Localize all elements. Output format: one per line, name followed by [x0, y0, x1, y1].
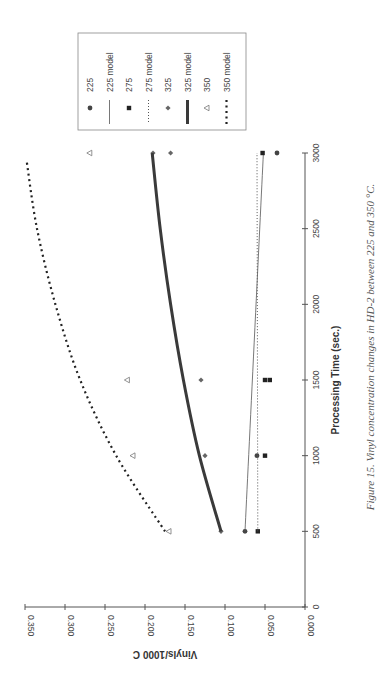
data-point	[130, 453, 135, 459]
chart-figure: 0500100015002000250030000.0000.0500.1000…	[0, 0, 386, 681]
legend-label: 225 model	[105, 52, 115, 92]
y-tick-label: 0.300	[66, 615, 76, 637]
data-point	[256, 529, 260, 533]
data-point	[202, 453, 207, 458]
data-point	[263, 453, 267, 457]
data-point	[268, 378, 272, 382]
legend: 225225 model275275 model325325 model3503…	[78, 33, 246, 130]
x-tick-label: 500	[311, 524, 321, 538]
x-tick-label: 0	[311, 604, 321, 609]
series-275	[256, 151, 272, 534]
legend-label: 275 model	[144, 52, 154, 92]
data-point	[198, 377, 203, 382]
model-line	[152, 153, 221, 531]
data-point	[166, 529, 171, 535]
model-line	[257, 153, 258, 531]
y-tick-label: 0.250	[106, 615, 116, 637]
data-point	[255, 453, 260, 458]
series-225-model	[245, 153, 263, 531]
series-325-model	[152, 153, 221, 531]
legend-label: 225	[85, 78, 95, 92]
x-tick-label: 2500	[311, 219, 321, 238]
series-350-model	[27, 161, 165, 532]
y-tick-label: 0.200	[146, 615, 156, 637]
legend-label: 325 model	[183, 52, 193, 92]
x-axis-title: Processing Time (sec.)	[330, 326, 341, 435]
x-tick-label: 1500	[311, 370, 321, 389]
y-tick-label: 0.050	[266, 615, 276, 637]
y-axis-title: Vinyls/1000 C	[133, 649, 197, 660]
circle-marker-icon	[88, 106, 93, 111]
model-line	[27, 161, 165, 532]
plot-area	[27, 150, 280, 534]
data-point	[263, 378, 267, 382]
figure-caption: Figure 15. Vinyl concentration changes i…	[364, 184, 376, 512]
series-275-model	[257, 153, 258, 531]
data-point	[275, 151, 280, 156]
y-tick-label: 0.350	[26, 615, 36, 637]
data-point	[87, 150, 92, 156]
series-325	[150, 150, 223, 534]
square-marker-icon	[127, 106, 131, 110]
y-tick-label: 0.000	[306, 615, 316, 637]
legend-label: 350	[202, 78, 212, 92]
legend-label: 275	[124, 78, 134, 92]
data-point	[124, 377, 129, 383]
y-tick-label: 0.100	[226, 615, 236, 637]
data-point	[260, 151, 264, 155]
data-point	[168, 150, 173, 155]
legend-label: 325	[163, 78, 173, 92]
y-tick-label: 0.150	[186, 615, 196, 637]
x-tick-label: 2000	[311, 295, 321, 314]
axes: 0500100015002000250030000.0000.0500.1000…	[25, 143, 321, 636]
legend-label: 350 model	[222, 52, 232, 92]
x-tick-label: 3000	[311, 143, 321, 162]
model-line	[245, 153, 263, 531]
x-tick-label: 1000	[311, 446, 321, 465]
